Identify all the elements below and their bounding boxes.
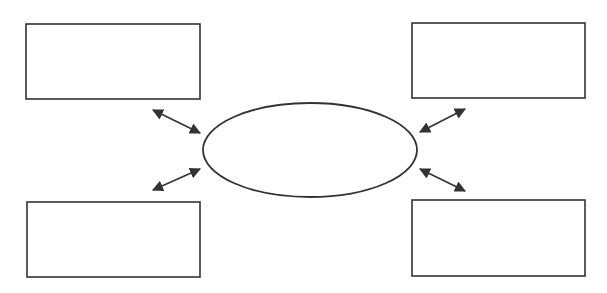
mind-map-diagram	[0, 0, 607, 293]
center-ellipse	[203, 103, 417, 197]
double-arrow-top-left-icon	[153, 110, 200, 133]
box-bottom-right	[412, 200, 585, 276]
box-bottom-left	[27, 202, 200, 277]
double-arrow-bottom-right-icon	[420, 169, 465, 191]
box-top-left	[26, 24, 200, 99]
double-arrow-top-right-icon	[420, 109, 465, 132]
double-arrow-bottom-left-icon	[153, 169, 200, 190]
box-top-right	[412, 23, 585, 98]
